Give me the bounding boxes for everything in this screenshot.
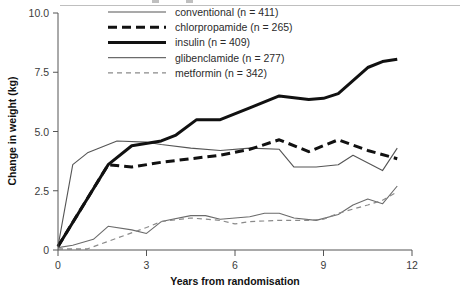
y-axis-title: Change in weight (kg) xyxy=(6,76,18,185)
y-tick-label: 5.0 xyxy=(34,126,49,138)
weight-change-line-chart: 02.55.07.510.0 036912 Change in weight (… xyxy=(0,0,463,291)
x-tick-label: 6 xyxy=(232,259,238,271)
x-tick-label: 3 xyxy=(144,259,150,271)
legend-label-insulin: insulin (n = 409) xyxy=(175,36,250,48)
x-tick-label: 12 xyxy=(406,259,418,271)
legend-label-metformin: metformin (n = 342) xyxy=(175,67,267,79)
y-tick-label: 0 xyxy=(43,244,49,256)
x-tick-label: 0 xyxy=(55,259,61,271)
legend-label-glibenclamide: glibenclamide (n = 277) xyxy=(175,52,284,64)
y-tick-label: 10.0 xyxy=(29,7,50,19)
legend-label-chlorpropamide: chlorpropamide (n = 265) xyxy=(175,21,293,33)
x-axis-title: Years from randomisation xyxy=(170,275,300,287)
legend-label-conventional: conventional (n = 411) xyxy=(175,6,278,18)
x-tick-label: 9 xyxy=(321,259,327,271)
y-tick-label: 2.5 xyxy=(34,185,49,197)
y-tick-label: 7.5 xyxy=(34,66,49,78)
